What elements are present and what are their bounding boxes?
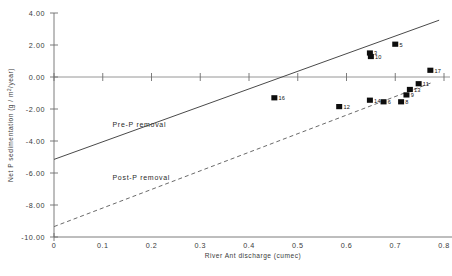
data-point-label: 5 (399, 42, 402, 48)
data-point-label: 8 (405, 99, 408, 105)
series-annotation: Pre-P removal (113, 121, 167, 128)
data-point-marker (427, 68, 433, 73)
regression-line-solid (54, 20, 439, 159)
y-tick-group: 4.002.000.00-2.00-4.00-6.00-8.00-10.00 (21, 9, 58, 242)
data-point-label: 11 (423, 81, 429, 87)
data-point-marker (336, 104, 342, 109)
y-tick-label: -2.00 (26, 105, 45, 114)
y-tick-label: 2.00 (29, 41, 45, 50)
y-axis-title: Net P sedimentation (g / m2/year) (7, 68, 15, 182)
plot-area: 4.002.000.00-2.00-4.00-6.00-8.00-10.00 0… (0, 0, 452, 276)
y-tick-label: 0.00 (29, 73, 45, 82)
data-point-marker (381, 99, 387, 104)
data-point-label: 14 (374, 98, 381, 104)
scatter-chart: 4.002.000.00-2.00-4.00-6.00-8.00-10.00 0… (0, 0, 452, 276)
data-point-label: 17 (435, 68, 442, 74)
x-tick-label: 0.7 (389, 241, 401, 250)
data-point-marker (416, 81, 422, 86)
data-points: 1631051214689131117 (271, 42, 441, 110)
data-point-marker (392, 42, 398, 47)
data-point-label: 13 (414, 87, 421, 93)
data-point-marker (398, 99, 404, 104)
data-point-marker (271, 95, 277, 100)
y-tick-label: -10.00 (21, 233, 45, 242)
y-tick-label: -4.00 (26, 137, 45, 146)
x-axis-title: River Ant discharge (cumec) (205, 252, 301, 260)
x-tick-label: 0.1 (97, 241, 109, 250)
x-tick-label: 0 (52, 241, 57, 250)
x-tick-label: 0.3 (194, 241, 206, 250)
x-tick-label: 0.4 (243, 241, 255, 250)
data-point-label: 6 (388, 99, 391, 105)
y-tick-label: 4.00 (29, 9, 45, 18)
x-tick-label: 0.6 (341, 241, 353, 250)
data-point-label: 16 (279, 95, 286, 101)
data-point-label: 12 (343, 104, 350, 110)
series-annotation: Post-P removal (113, 174, 171, 181)
data-point-label: 10 (375, 54, 382, 60)
data-point-marker (368, 54, 374, 59)
x-tick-label: 0.2 (146, 241, 158, 250)
data-point-marker (403, 92, 409, 97)
y-tick-label: -8.00 (26, 201, 45, 210)
y-tick-label: -6.00 (26, 169, 45, 178)
data-point-marker (367, 98, 373, 103)
regression-line-dashed (54, 83, 432, 227)
x-tick-label: 0.5 (292, 241, 304, 250)
data-point-marker (407, 87, 413, 92)
x-tick-label: 0.8 (438, 241, 450, 250)
data-point-label: 9 (411, 92, 414, 98)
series-annotations: Pre-P removalPost-P removal (113, 121, 171, 182)
